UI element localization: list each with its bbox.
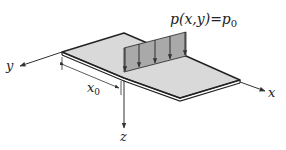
- x0-label: x0: [87, 80, 100, 97]
- y-axis: [20, 52, 62, 66]
- plate-diagram: p(x,y)=p0 y x z x0: [0, 0, 286, 150]
- load-label: p(x,y)=p0: [170, 11, 237, 29]
- y-axis-label: y: [5, 58, 14, 73]
- x-axis-label: x: [268, 85, 276, 100]
- x-axis: [240, 82, 265, 91]
- z-axis-label: z: [119, 129, 127, 144]
